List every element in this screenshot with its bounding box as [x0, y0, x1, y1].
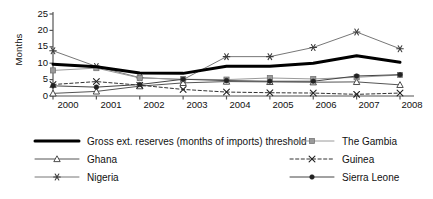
chart-figure: Months 25 20 15 10 5 0 2000 2001 2002 20…: [0, 0, 433, 199]
legend-swatch-sierra-leone-icon: [288, 169, 336, 185]
legend-swatch-ghana-icon: [33, 151, 81, 167]
legend-item-threshold: Gross ext. reserves (months of imports) …: [33, 132, 307, 150]
legend-item-ghana: Ghana: [33, 150, 307, 168]
legend-label-guinea: Guinea: [336, 154, 374, 165]
x-tick-2003: 2003: [177, 100, 217, 110]
chart-legend: Gross ext. reserves (months of imports) …: [0, 132, 433, 194]
series-sierra-leone: [51, 72, 403, 89]
legend-column-left: Gross ext. reserves (months of imports) …: [33, 132, 307, 186]
legend-swatch-guinea-icon: [288, 151, 336, 167]
legend-item-nigeria: Nigeria: [33, 168, 307, 186]
x-tick-2005: 2005: [263, 100, 303, 110]
plot-area: Months 25 20 15 10 5 0 2000 2001 2002 20…: [0, 0, 433, 120]
legend-label-sierra-leone: Sierra Leone: [336, 172, 399, 183]
x-tick-2006: 2006: [306, 100, 346, 110]
legend-column-right: The Gambia Guinea Sierra Leone: [288, 132, 399, 186]
legend-label-nigeria: Nigeria: [81, 172, 119, 183]
x-tick-2004: 2004: [220, 100, 260, 110]
legend-swatch-the-gambia-icon: [288, 133, 336, 149]
legend-label-threshold: Gross ext. reserves (months of imports) …: [81, 136, 307, 147]
x-tick-2008: 2008: [392, 100, 432, 110]
legend-swatch-nigeria-icon: [33, 169, 81, 185]
legend-item-sierra-leone: Sierra Leone: [288, 168, 399, 186]
x-tick-2007: 2007: [349, 100, 389, 110]
legend-label-the-gambia: The Gambia: [336, 136, 397, 147]
series-gross-ext-reserves-months-of-imports-threshold: [53, 56, 400, 74]
x-tick-2002: 2002: [134, 100, 174, 110]
legend-item-the-gambia: The Gambia: [288, 132, 399, 150]
x-tick-2001: 2001: [91, 100, 131, 110]
legend-item-guinea: Guinea: [288, 150, 399, 168]
x-tick-2000: 2000: [48, 100, 88, 110]
legend-swatch-threshold-icon: [33, 133, 81, 149]
legend-label-ghana: Ghana: [81, 154, 117, 165]
